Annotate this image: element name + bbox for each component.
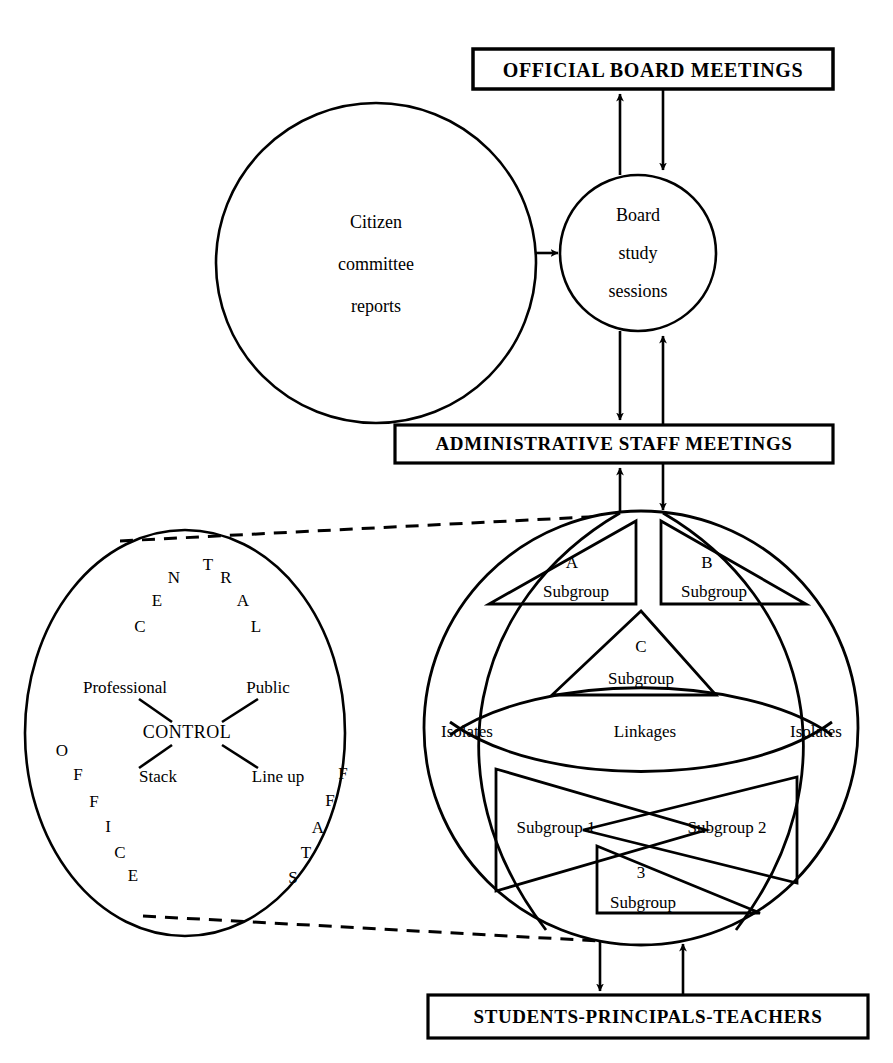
isolates-right-label: Isolates	[790, 723, 842, 741]
staff-letter-t: T	[301, 844, 311, 862]
citizen-line-2: committee	[338, 255, 414, 274]
office-letter-c: C	[114, 844, 125, 862]
central-letter-a: A	[237, 592, 249, 610]
office-letter-o: O	[56, 742, 68, 760]
students-principals-teachers-label: STUDENTS-PRINCIPALS-TEACHERS	[473, 1007, 822, 1027]
administrative-staff-meetings-label: ADMINISTRATIVE STAFF MEETINGS	[436, 434, 793, 454]
subgroup-a-label: Subgroup	[543, 583, 609, 601]
board-line-3: sessions	[608, 282, 667, 301]
central-letter-n: N	[168, 569, 180, 587]
isolates-left-label: Isolates	[441, 723, 493, 741]
staff-letter-a: A	[312, 819, 324, 837]
subgroup-b-label: Subgroup	[681, 583, 747, 601]
subgroup-b-letter: B	[701, 554, 712, 572]
official-board-meetings-label: OFFICIAL BOARD MEETINGS	[503, 60, 804, 81]
citizen-line-3: reports	[351, 297, 401, 316]
citizen-line-1: Citizen	[350, 213, 402, 232]
diagram-canvas: OFFICIAL BOARD MEETINGS ADMINISTRATIVE S…	[0, 0, 893, 1063]
spoke-label-stack: Stack	[139, 768, 177, 786]
subgroup-c-label: Subgroup	[608, 670, 674, 688]
central-letter-l: L	[251, 618, 261, 636]
subgroup-3-label: Subgroup	[610, 894, 676, 912]
board-line-2: study	[618, 244, 657, 263]
diagram-vector-layer	[0, 0, 893, 1063]
central-letter-r: R	[220, 569, 231, 587]
subgroup-1-label: Subgroup 1	[517, 819, 596, 837]
office-letter-i: I	[105, 818, 111, 836]
subgroup-3-letter: 3	[637, 864, 646, 882]
staff-letter-s: S	[288, 869, 297, 887]
subgroup-a-letter: A	[566, 554, 578, 572]
subgroup-c-letter: C	[635, 638, 646, 656]
board-line-1: Board	[616, 206, 660, 225]
office-letter-f2: F	[89, 793, 98, 811]
central-letter-t: T	[203, 556, 213, 574]
staff-letter-f1: F	[325, 792, 334, 810]
central-letter-e: E	[152, 592, 162, 610]
subgroup-2-label: Subgroup 2	[688, 819, 767, 837]
spoke-label-public: Public	[246, 679, 289, 697]
linkages-label: Linkages	[614, 723, 676, 741]
spoke-label-professional: Professional	[83, 679, 167, 697]
office-letter-f1: F	[73, 766, 82, 784]
staff-letter-f2: F	[338, 765, 347, 783]
office-letter-e: E	[128, 867, 138, 885]
central-letter-c: C	[134, 618, 145, 636]
control-label: CONTROL	[143, 723, 232, 742]
spoke-label-line-up: Line up	[252, 768, 304, 786]
